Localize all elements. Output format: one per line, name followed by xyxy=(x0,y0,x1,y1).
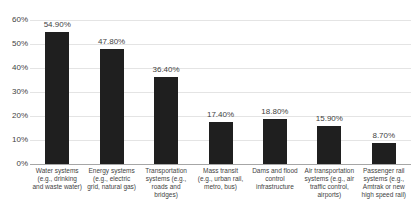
bar xyxy=(154,77,178,164)
x-axis-category-label: Energy systems (e.g., electric grid, nat… xyxy=(87,167,137,191)
bar-column: 18.80% xyxy=(263,20,287,164)
y-axis-tick-label: 0% xyxy=(0,160,28,168)
bar-value-label: 17.40% xyxy=(207,110,234,119)
x-axis-category-label: Dams and flood control infrastructure xyxy=(250,167,300,191)
x-axis-category-label: Water systems (e.g., drinking and waste … xyxy=(32,167,82,191)
bar-value-label: 15.90% xyxy=(316,114,343,123)
bar-column: 15.90% xyxy=(317,20,341,164)
bar-value-label: 47.80% xyxy=(98,37,125,46)
x-axis-category-label: Air transportation systems (e.g., air tr… xyxy=(304,167,354,199)
bar-value-label: 18.80% xyxy=(261,107,288,116)
bar-column: 54.90% xyxy=(45,20,69,164)
y-axis-tick-label: 20% xyxy=(0,112,28,120)
bar-column: 8.70% xyxy=(372,20,396,164)
y-axis: 0%10%20%30%40%50%60% xyxy=(0,0,28,218)
y-axis-tick-label: 10% xyxy=(0,136,28,144)
bar-column: 47.80% xyxy=(100,20,124,164)
bar-column: 36.40% xyxy=(154,20,178,164)
bar xyxy=(372,143,396,164)
bar-value-label: 36.40% xyxy=(152,65,179,74)
x-axis-category-label: Passenger rail systems (e.g., Amtrak or … xyxy=(359,167,409,199)
bar-value-label: 54.90% xyxy=(44,20,71,29)
plot-area: 54.90%47.80%36.40%17.40%18.80%15.90%8.70… xyxy=(30,20,411,164)
x-axis-category-labels: Water systems (e.g., drinking and waste … xyxy=(30,167,411,218)
y-axis-tick-label: 40% xyxy=(0,64,28,72)
x-axis-category-label: Mass transit (e.g., urban rail, metro, b… xyxy=(196,167,246,191)
y-axis-tick-label: 30% xyxy=(0,88,28,96)
bar xyxy=(209,122,233,164)
bar xyxy=(317,126,341,164)
bar xyxy=(263,119,287,164)
y-axis-tick-label: 50% xyxy=(0,40,28,48)
bar xyxy=(100,49,124,164)
bar xyxy=(45,32,69,164)
y-axis-tick-label: 60% xyxy=(0,16,28,24)
x-axis-category-label: Transportation systems (e.g., roads and … xyxy=(141,167,191,199)
bar-value-label: 8.70% xyxy=(372,131,395,140)
bar-column: 17.40% xyxy=(209,20,233,164)
bar-chart: 0%10%20%30%40%50%60% 54.90%47.80%36.40%1… xyxy=(0,0,419,218)
x-axis-line xyxy=(30,164,411,165)
